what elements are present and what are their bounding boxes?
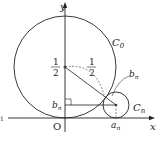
center-y-fraction: 1 2 [51, 57, 60, 78]
cn-label: Cn [133, 102, 146, 115]
bn-right-label: bn [129, 69, 139, 80]
svg-text:1: 1 [89, 57, 95, 67]
half-radius-brace [65, 66, 104, 95]
right-angle-marker [65, 99, 71, 105]
svg-text:2: 2 [53, 68, 59, 78]
svg-text:1: 1 [53, 57, 59, 67]
left-edge-fragment: 1 [0, 115, 4, 122]
an-label: an [111, 120, 120, 131]
x-axis-label: x [150, 121, 156, 132]
diagram-canvas: y x O 1 C0 Cn 1 2 1 2 bn bn an [0, 0, 163, 144]
bn-left-label: bn [52, 100, 62, 111]
origin-label: O [53, 121, 61, 132]
y-axis-label: y [59, 1, 66, 12]
svg-text:2: 2 [89, 68, 95, 78]
x-axis-arrow-icon [149, 116, 155, 120]
radius-fraction: 1 2 [87, 57, 96, 78]
c0-label: C0 [112, 37, 125, 50]
